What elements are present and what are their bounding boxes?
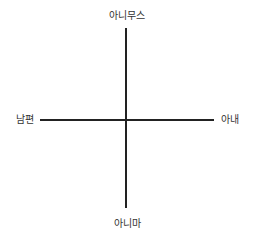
horizontal-axis-line xyxy=(40,119,214,121)
axis-label-bottom: 아니마 xyxy=(108,218,146,230)
axis-label-top: 아니무스 xyxy=(108,10,146,22)
axis-label-right: 아내 xyxy=(221,114,239,126)
vertical-axis-line xyxy=(125,28,127,208)
axis-label-left: 남편 xyxy=(4,114,34,126)
